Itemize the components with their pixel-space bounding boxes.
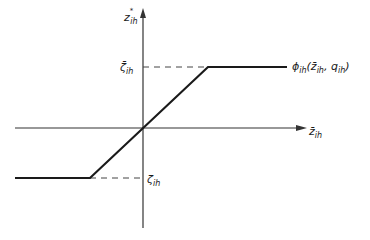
function-label-separator: , [324, 60, 331, 73]
lower-bound-label: ζih [147, 170, 160, 188]
y-axis-label: z*ih [124, 8, 138, 26]
function-label-arg2: q [331, 60, 338, 73]
y-axis-arrow-icon [140, 8, 146, 18]
lower-bound-label-sub: ih [153, 179, 160, 188]
upper-bound-label: ζ̄ih [120, 58, 133, 76]
function-label-arg1-sub: ih [317, 66, 324, 75]
diagram-canvas [0, 0, 370, 240]
x-axis-label: z̄ih [309, 122, 322, 140]
y-axis-label-base: z [124, 11, 130, 24]
function-curve [15, 67, 287, 178]
y-axis-label-sup: * [130, 7, 134, 15]
function-label-close-paren: ) [345, 60, 349, 73]
x-axis-arrow-icon [296, 125, 307, 131]
function-label: ϕih(z̄ih, qih) [292, 61, 350, 75]
upper-bound-label-sub: ih [126, 67, 133, 76]
function-label-sub: ih [299, 66, 306, 75]
y-axis-label-sub: ih [130, 17, 137, 26]
x-axis-label-sub: ih [315, 131, 322, 140]
